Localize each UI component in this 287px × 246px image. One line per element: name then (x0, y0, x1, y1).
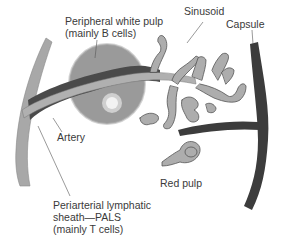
label-pals-line1: Periarterial lymphatic (53, 199, 151, 211)
label-peripheral-white-pulp: Peripheral white pulp (mainly B cells) (65, 15, 163, 39)
leader-sinusoid (187, 22, 203, 43)
label-pals-line2: sheath—PALS (53, 211, 151, 223)
label-peripheral-white-pulp-line1: Peripheral white pulp (65, 15, 163, 27)
label-capsule: Capsule (226, 18, 265, 30)
label-peripheral-white-pulp-line2: (mainly B cells) (65, 27, 163, 39)
red-pulp-island (162, 141, 200, 166)
leader-artery (53, 118, 62, 132)
label-sinusoid: Sinusoid (184, 5, 224, 17)
leader-lines (38, 22, 253, 196)
label-pals-line3: (mainly T cells) (53, 223, 151, 235)
label-artery: Artery (57, 131, 85, 143)
label-red-pulp: Red pulp (160, 177, 202, 189)
leader-capsule (252, 30, 253, 44)
label-pals: Periarterial lymphatic sheath—PALS (main… (53, 199, 151, 235)
capsule-trabecula (178, 121, 260, 136)
germinal-center-core (106, 97, 118, 109)
spleen-diagram: Peripheral white pulp (mainly B cells) S… (0, 0, 287, 246)
